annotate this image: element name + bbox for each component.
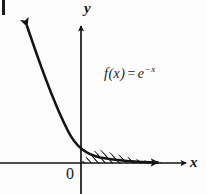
exponential-decay-figure: y x 0 f(x)=e−x [0,0,207,194]
x-axis-label: x [190,155,198,170]
function-name-text: f(x) [104,66,125,81]
y-axis-label: y [84,1,91,16]
function-base-text: e [138,66,145,81]
function-exponent-text: −x [145,64,156,74]
plot-canvas [0,0,207,194]
origin-label: 0 [66,166,74,182]
equals-sign: = [125,66,137,81]
function-equation-label: f(x)=e−x [104,64,156,82]
exponential-curve [27,26,158,163]
